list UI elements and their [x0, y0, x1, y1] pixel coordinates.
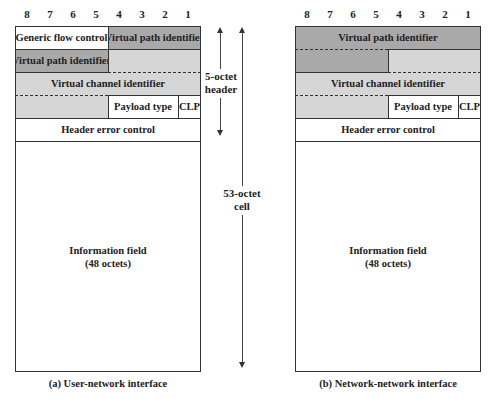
bit-number: 3 — [132, 8, 152, 20]
divider — [178, 95, 179, 118]
arrow-down-icon — [239, 362, 245, 368]
dashed-divider — [295, 95, 388, 96]
dashed-divider — [108, 72, 201, 73]
divider — [458, 95, 459, 118]
header-arrow-line — [220, 98, 221, 130]
divider — [108, 95, 109, 118]
bit-number: 4 — [389, 8, 409, 20]
divider — [108, 26, 109, 72]
bit-number: 5 — [86, 8, 106, 20]
divider — [15, 118, 201, 119]
bit-number: 3 — [412, 8, 432, 20]
divider — [108, 95, 201, 96]
dashed-divider — [15, 95, 108, 96]
cell-size-line1: 53-octet — [216, 187, 268, 200]
divider — [295, 72, 388, 73]
nni-outline — [295, 26, 481, 372]
divider — [388, 95, 389, 118]
bit-number: 8 — [17, 8, 37, 20]
bit-number: 2 — [155, 8, 175, 20]
uni-caption: (a) User-network interface — [15, 378, 201, 389]
arrow-down-icon — [217, 130, 223, 136]
bit-number: 7 — [320, 8, 340, 20]
header-size-label: 5-octet header — [200, 70, 242, 96]
bit-number: 1 — [458, 8, 478, 20]
bit-number: 6 — [343, 8, 363, 20]
header-size-line1: 5-octet — [200, 70, 242, 83]
bit-number: 7 — [40, 8, 60, 20]
header-arrow-line — [220, 32, 221, 69]
bit-number: 8 — [297, 8, 317, 20]
divider — [388, 49, 389, 72]
nni-bit-numbers: 8 7 6 5 4 3 2 1 — [295, 8, 481, 22]
bit-number: 1 — [178, 8, 198, 20]
divider — [15, 141, 201, 142]
dashed-divider — [295, 49, 388, 50]
bit-number: 6 — [63, 8, 83, 20]
bit-number: 5 — [366, 8, 386, 20]
divider — [388, 49, 481, 50]
divider — [388, 95, 481, 96]
divider — [15, 72, 108, 73]
cell-size-label: 53-octet cell — [216, 187, 268, 213]
cell-arrow-line — [242, 215, 243, 363]
divider — [295, 141, 481, 142]
nni-caption: (b) Network-network interface — [295, 378, 481, 389]
cell-size-line2: cell — [216, 200, 268, 213]
uni-bit-numbers: 8 7 6 5 4 3 2 1 — [15, 8, 201, 22]
uni-outline — [15, 26, 201, 372]
header-size-line2: header — [200, 83, 242, 96]
divider — [295, 118, 481, 119]
bit-number: 2 — [435, 8, 455, 20]
cell-arrow-line — [242, 32, 243, 186]
dashed-divider — [388, 72, 481, 73]
bit-number: 4 — [109, 8, 129, 20]
